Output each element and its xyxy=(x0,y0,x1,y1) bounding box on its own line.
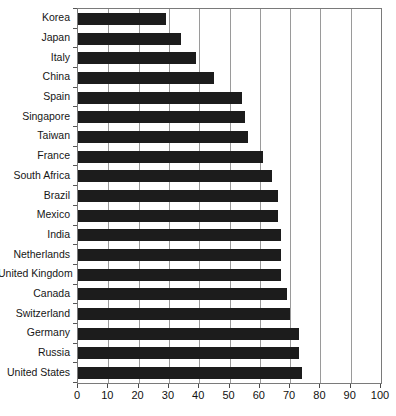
bar xyxy=(78,347,299,359)
category-tick xyxy=(73,244,77,245)
value-tick-label: 50 xyxy=(214,389,244,402)
value-tick-label: 0 xyxy=(62,389,92,402)
category-label: Singapore xyxy=(0,111,70,122)
value-tick-label: 20 xyxy=(123,389,153,402)
category-tick xyxy=(73,225,77,226)
bar xyxy=(78,33,181,45)
category-label: Russia xyxy=(0,347,70,358)
category-label: China xyxy=(0,71,70,82)
gridline xyxy=(320,9,321,383)
value-tick xyxy=(107,384,108,388)
bar xyxy=(78,367,302,379)
category-label: Spain xyxy=(0,91,70,102)
bar xyxy=(78,210,278,222)
category-label: Switzerland xyxy=(0,308,70,319)
value-tick xyxy=(350,384,351,388)
category-label: France xyxy=(0,150,70,161)
value-tick-label: 90 xyxy=(335,389,365,402)
value-tick xyxy=(289,384,290,388)
category-tick xyxy=(73,47,77,48)
category-tick xyxy=(73,205,77,206)
category-label: Netherlands xyxy=(0,249,70,260)
category-tick xyxy=(73,106,77,107)
value-tick xyxy=(168,384,169,388)
bar xyxy=(78,308,290,320)
value-tick-label: 70 xyxy=(274,389,304,402)
plot-area xyxy=(77,8,382,384)
category-tick xyxy=(73,146,77,147)
category-tick xyxy=(73,165,77,166)
bar xyxy=(78,151,263,163)
bar xyxy=(78,52,196,64)
bar xyxy=(78,328,299,340)
value-tick xyxy=(198,384,199,388)
category-tick xyxy=(73,8,77,9)
value-tick-label: 10 xyxy=(92,389,122,402)
bar xyxy=(78,72,214,84)
bar xyxy=(78,170,272,182)
category-tick xyxy=(73,323,77,324)
category-label: Canada xyxy=(0,288,70,299)
category-tick xyxy=(73,87,77,88)
bar-chart: KoreaJapanItalyChinaSpainSingaporeTaiwan… xyxy=(0,0,396,416)
bar xyxy=(78,92,242,104)
bar xyxy=(78,131,248,143)
value-tick-label: 30 xyxy=(153,389,183,402)
chart-title-cropped xyxy=(0,0,396,7)
category-tick xyxy=(73,67,77,68)
category-tick xyxy=(73,28,77,29)
category-tick xyxy=(73,303,77,304)
value-tick xyxy=(319,384,320,388)
category-label: South Africa xyxy=(0,170,70,181)
value-tick-label: 80 xyxy=(304,389,334,402)
category-label: Germany xyxy=(0,327,70,338)
category-tick xyxy=(73,362,77,363)
category-tick xyxy=(73,185,77,186)
category-tick xyxy=(73,264,77,265)
bar xyxy=(78,249,281,261)
value-tick xyxy=(229,384,230,388)
bar xyxy=(78,190,278,202)
category-label: Mexico xyxy=(0,209,70,220)
bar xyxy=(78,288,287,300)
category-label: United States xyxy=(0,367,70,378)
category-label: Japan xyxy=(0,32,70,43)
category-tick xyxy=(73,382,77,383)
value-tick-label: 100 xyxy=(365,389,395,402)
category-label: India xyxy=(0,229,70,240)
bar xyxy=(78,111,245,123)
value-tick xyxy=(259,384,260,388)
value-tick-label: 60 xyxy=(244,389,274,402)
bar xyxy=(78,13,166,25)
category-tick xyxy=(73,343,77,344)
value-tick xyxy=(77,384,78,388)
bar xyxy=(78,229,281,241)
category-label: United Kingdom xyxy=(0,268,70,279)
value-tick xyxy=(380,384,381,388)
category-axis-labels: KoreaJapanItalyChinaSpainSingaporeTaiwan… xyxy=(0,8,74,384)
category-label: Italy xyxy=(0,52,70,63)
category-label: Taiwan xyxy=(0,130,70,141)
value-tick xyxy=(138,384,139,388)
category-label: Brazil xyxy=(0,190,70,201)
bar xyxy=(78,269,281,281)
category-label: Korea xyxy=(0,12,70,23)
category-tick xyxy=(73,126,77,127)
gridline xyxy=(351,9,352,383)
value-axis: 0102030405060708090100 xyxy=(77,384,382,410)
value-tick-label: 40 xyxy=(183,389,213,402)
category-tick xyxy=(73,284,77,285)
